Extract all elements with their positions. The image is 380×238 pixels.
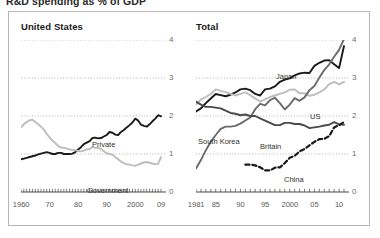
chart-figure: R&D spending as % of GDP United States 0… xyxy=(0,0,380,238)
y-tick-label: 1 xyxy=(169,149,173,158)
series-label-china: China xyxy=(284,175,304,184)
chart-frame: United States 01234 1960708090200009 Pri… xyxy=(8,11,370,226)
x-tick-label: 2000 xyxy=(282,200,299,209)
y-tick-label: 4 xyxy=(352,35,356,44)
series-label-private: Private xyxy=(92,140,115,149)
x-tick-label: 70 xyxy=(45,200,53,209)
plot-right xyxy=(196,40,354,200)
figure-header: R&D spending as % of GDP xyxy=(0,0,380,11)
y-tick-label: 3 xyxy=(352,73,356,82)
series-line-japan xyxy=(196,46,344,111)
series-label-britain: Britain xyxy=(260,142,281,151)
series-label-south-korea: South Korea xyxy=(198,137,240,146)
x-tick-label: 95 xyxy=(261,200,269,209)
y-tick-label: 0 xyxy=(169,187,173,196)
series-line-britain xyxy=(196,102,344,129)
series-label-japan: Japan xyxy=(276,72,296,81)
x-tick-label: 90 xyxy=(236,200,244,209)
panel-united-states: United States 01234 1960708090200009 Pri… xyxy=(9,12,190,227)
series-label-us: US xyxy=(310,112,320,121)
series-line-private xyxy=(21,115,161,159)
series-line-government xyxy=(21,120,161,166)
x-tick-label: 2000 xyxy=(127,200,144,209)
figure-title: R&D spending as % of GDP xyxy=(6,0,146,7)
series-label-government: Government xyxy=(87,186,128,195)
y-tick-label: 1 xyxy=(352,149,356,158)
x-tick-label: 05 xyxy=(310,200,318,209)
y-tick-label: 0 xyxy=(352,187,356,196)
y-tick-label: 3 xyxy=(169,73,173,82)
panel-right-title: Total xyxy=(196,21,219,32)
x-tick-label: 1981 xyxy=(188,200,205,209)
x-tick-label: 90 xyxy=(103,200,111,209)
y-tick-label: 2 xyxy=(169,111,173,120)
x-tick-label: 80 xyxy=(74,200,82,209)
plot-left xyxy=(21,40,171,200)
x-tick-label: 10 xyxy=(335,200,343,209)
x-tick-label: 85 xyxy=(212,200,220,209)
panel-left-title: United States xyxy=(21,21,83,32)
y-tick-label: 2 xyxy=(352,111,356,120)
x-tick-label: 1960 xyxy=(13,200,30,209)
panel-total: Total 01234 198185909520000510 Japan US … xyxy=(190,12,371,227)
y-tick-label: 4 xyxy=(169,35,173,44)
x-tick-label: 09 xyxy=(157,200,165,209)
